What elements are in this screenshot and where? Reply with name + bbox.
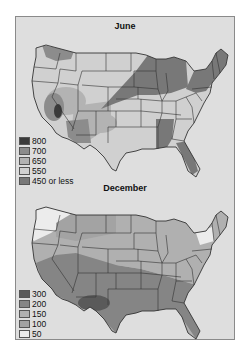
legend-item: 650 — [19, 156, 74, 166]
legend-item: 200 — [19, 299, 46, 309]
legend-item: 700 — [19, 146, 74, 156]
legend-swatch — [19, 157, 30, 165]
december-title: December — [16, 183, 234, 193]
legend-swatch — [19, 290, 30, 298]
legend-item: 300 — [19, 289, 46, 299]
legend-swatch — [19, 147, 30, 155]
june-legend: 800 700 650 550 450 or less — [19, 136, 74, 186]
legend-swatch — [19, 167, 30, 175]
legend-item: 800 — [19, 136, 74, 146]
december-map — [16, 193, 236, 343]
figure-panel: June — [15, 16, 235, 340]
legend-swatch — [19, 330, 30, 338]
legend-item: 550 — [19, 166, 74, 176]
june-title: June — [16, 21, 234, 31]
legend-swatch — [19, 300, 30, 308]
legend-swatch — [19, 137, 30, 145]
legend-item: 50 — [19, 329, 46, 339]
legend-item: 100 — [19, 319, 46, 329]
legend-item: 150 — [19, 309, 46, 319]
legend-swatch — [19, 310, 30, 318]
december-legend: 300 200 150 100 50 — [19, 289, 46, 339]
legend-swatch — [19, 320, 30, 328]
